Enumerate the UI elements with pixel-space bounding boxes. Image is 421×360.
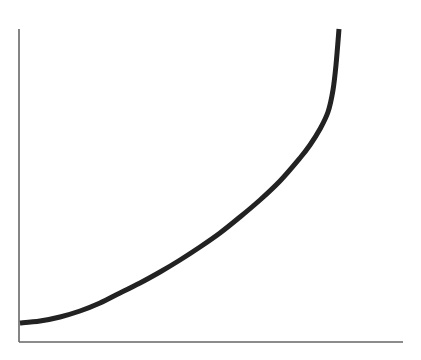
data-curve <box>20 29 339 323</box>
line-chart <box>0 0 421 360</box>
